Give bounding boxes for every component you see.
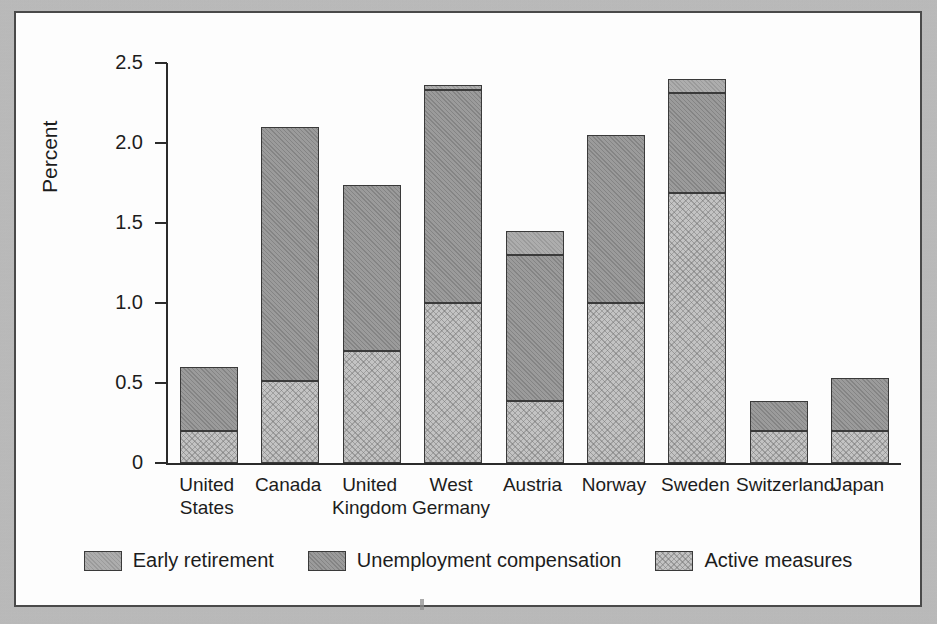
- legend-label: Unemployment compensation: [357, 549, 622, 572]
- y-axis-tick: 1.0: [155, 302, 167, 304]
- y-axis-tick-label: 1.0: [115, 291, 143, 314]
- y-axis-tick-label: 2.0: [115, 131, 143, 154]
- plot-region: 00.51.01.52.02.5: [166, 63, 901, 465]
- bar-segment[interactable]: [831, 431, 889, 463]
- y-axis-tick: 0: [155, 462, 167, 464]
- stacked-bar[interactable]: [180, 63, 238, 463]
- y-axis-tick-label: 1.5: [115, 211, 143, 234]
- x-axis-tick-label: Canada: [247, 473, 328, 496]
- bar-group[interactable]: [343, 63, 401, 463]
- bar-group[interactable]: [261, 63, 319, 463]
- stacked-bar[interactable]: [831, 63, 889, 463]
- y-axis-tick-label: 0: [132, 451, 143, 474]
- stacked-bar[interactable]: [587, 63, 645, 463]
- bar-group[interactable]: [180, 63, 238, 463]
- x-axis-tick-label: Austria: [492, 473, 573, 496]
- bar-segment[interactable]: [587, 135, 645, 303]
- y-axis-tick-label: 2.5: [115, 51, 143, 74]
- x-axis-tick-labels: UnitedStatesCanadaUnitedKingdomWestGerma…: [166, 473, 901, 533]
- x-axis-tick-label: Norway: [573, 473, 654, 496]
- chart-area: Percent 00.51.01.52.02.5 UnitedStatesCan…: [16, 13, 920, 605]
- y-axis-tick: 1.5: [155, 222, 167, 224]
- legend-swatch: [308, 551, 346, 571]
- stacked-bar[interactable]: [343, 63, 401, 463]
- bar-segment[interactable]: [668, 79, 726, 93]
- y-axis-tick: 2.5: [155, 62, 167, 64]
- bar-segment[interactable]: [831, 378, 889, 431]
- stacked-bar[interactable]: [261, 63, 319, 463]
- bar-segment[interactable]: [587, 303, 645, 463]
- legend-swatch: [84, 551, 122, 571]
- bar-segment[interactable]: [506, 231, 564, 255]
- bar-segment[interactable]: [180, 431, 238, 463]
- y-axis-tick: 2.0: [155, 142, 167, 144]
- bar-series-container: [168, 63, 901, 463]
- legend-swatch: [655, 551, 693, 571]
- bar-segment[interactable]: [750, 401, 808, 431]
- x-axis-tick-label: Japan: [818, 473, 899, 496]
- bar-segment[interactable]: [506, 401, 564, 463]
- y-axis-tick: 0.5: [155, 382, 167, 384]
- x-axis-tick-label: Switzerland: [736, 473, 817, 496]
- bar-segment[interactable]: [343, 351, 401, 463]
- legend-item[interactable]: Unemployment compensation: [308, 549, 622, 572]
- bar-segment[interactable]: [668, 193, 726, 463]
- x-axis-line: [166, 463, 901, 465]
- bar-group[interactable]: [506, 63, 564, 463]
- bar-segment[interactable]: [424, 303, 482, 463]
- legend-label: Active measures: [704, 549, 852, 572]
- chart-legend: Early retirementUnemployment compensatio…: [16, 549, 920, 572]
- bar-segment[interactable]: [668, 93, 726, 192]
- scan-artifact: [420, 599, 424, 610]
- bar-group[interactable]: [750, 63, 808, 463]
- bar-segment[interactable]: [506, 255, 564, 401]
- bar-group[interactable]: [831, 63, 889, 463]
- y-axis-label: Percent: [38, 121, 62, 193]
- bar-segment[interactable]: [180, 367, 238, 431]
- bar-segment[interactable]: [261, 381, 319, 463]
- x-axis-tick-label: UnitedKingdom: [329, 473, 410, 519]
- x-axis-tick-label: UnitedStates: [166, 473, 247, 519]
- legend-label: Early retirement: [133, 549, 274, 572]
- bar-group[interactable]: [424, 63, 482, 463]
- stacked-bar[interactable]: [424, 63, 482, 463]
- bar-group[interactable]: [587, 63, 645, 463]
- bar-segment[interactable]: [261, 127, 319, 381]
- legend-item[interactable]: Early retirement: [84, 549, 274, 572]
- stacked-bar[interactable]: [506, 63, 564, 463]
- x-axis-tick-label: Sweden: [655, 473, 736, 496]
- stacked-bar[interactable]: [750, 63, 808, 463]
- figure-frame: Percent 00.51.01.52.02.5 UnitedStatesCan…: [14, 11, 922, 607]
- bar-segment[interactable]: [343, 185, 401, 351]
- stacked-bar[interactable]: [668, 63, 726, 463]
- bar-group[interactable]: [668, 63, 726, 463]
- x-axis-tick-label: WestGermany: [410, 473, 491, 519]
- legend-item[interactable]: Active measures: [655, 549, 852, 572]
- bar-segment[interactable]: [424, 85, 482, 90]
- bar-segment[interactable]: [424, 90, 482, 303]
- bar-segment[interactable]: [750, 431, 808, 463]
- y-axis-tick-label: 0.5: [115, 371, 143, 394]
